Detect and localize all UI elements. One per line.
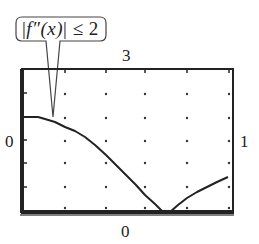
y-min-label: 0 (121, 223, 130, 240)
callout-formula: |f″(x)| ≤ 2 (22, 19, 99, 38)
second-derivative-curve (22, 117, 228, 212)
dot-grid (64, 93, 230, 209)
x-max-label: 1 (240, 133, 249, 150)
callout-inequality: | ≤ 2 (63, 18, 99, 39)
y-max-label: 3 (122, 47, 131, 64)
callout-expression: f″(x) (26, 18, 63, 39)
x-min-label: 0 (5, 133, 14, 150)
